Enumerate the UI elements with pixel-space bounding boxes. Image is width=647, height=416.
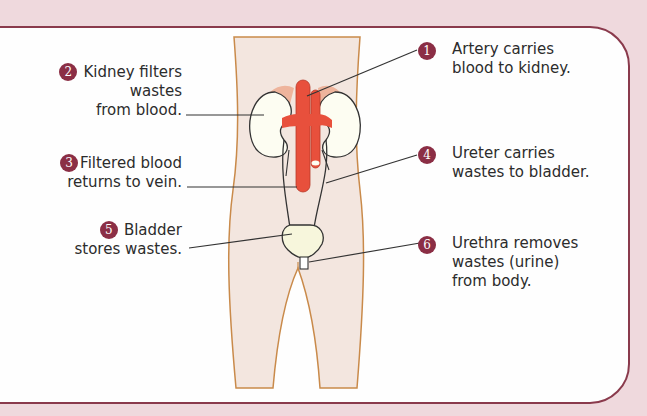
badge-5: 5 [100,221,118,239]
artery [311,90,320,168]
badge-1: 1 [418,42,436,60]
label-ureter: 4 Ureter carries wastes to bladder. [418,144,590,182]
label-vein: 3Filtered blood returns to vein. [60,154,182,192]
badge-2: 2 [59,63,77,81]
badge-6: 6 [418,236,436,254]
label-kidney: 2Kidney filters wastes from blood. [59,63,182,120]
urethra [300,257,308,269]
label-bladder: 5Bladder stores wastes. [75,221,183,259]
vein [296,80,310,192]
badge-3: 3 [60,154,78,172]
label-artery: 1 Artery carries blood to kidney. [418,40,571,78]
label-urethra: 6 Urethra removes wastes (urine) from bo… [418,234,578,291]
badge-4: 4 [418,146,436,164]
